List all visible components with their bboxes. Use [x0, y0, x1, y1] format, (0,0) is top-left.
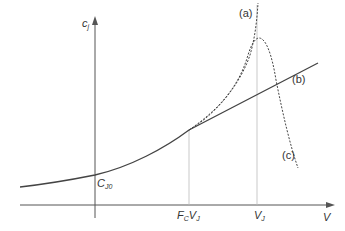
curve-a-label: (a)	[239, 8, 252, 19]
y-axis-arrow-icon	[92, 16, 98, 25]
curve-b	[20, 63, 318, 187]
vj-label: VJ	[254, 210, 265, 222]
curve-b-label: (b)	[292, 74, 305, 85]
curve-a	[189, 3, 258, 130]
curve-c-label: (c)	[282, 150, 295, 161]
capacitance-diagram	[0, 0, 345, 231]
y-axis-label: cj	[82, 18, 89, 30]
fc-vj-label: FCVJ	[177, 210, 200, 222]
x-axis-arrow-icon	[326, 202, 335, 208]
intercept-label: CJ0	[97, 178, 112, 190]
x-axis-label: V	[323, 212, 330, 223]
